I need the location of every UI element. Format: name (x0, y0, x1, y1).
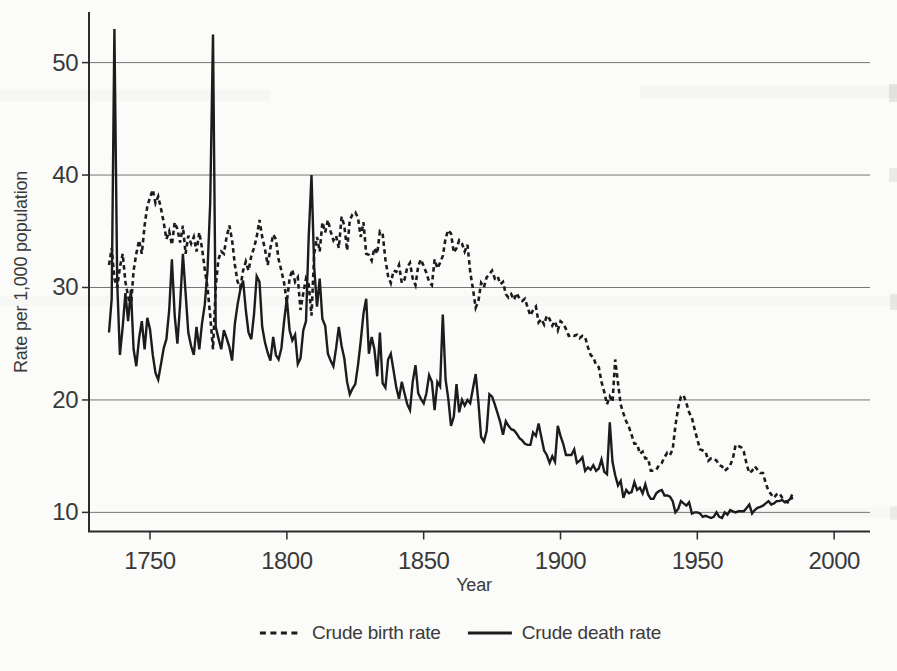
legend-item-birth-rate: Crude birth rate (259, 622, 441, 644)
x-tick-label-1900: 1900 (535, 547, 587, 574)
legend-label-birth-rate: Crude birth rate (312, 622, 441, 644)
x-tick-label-1850: 1850 (398, 547, 450, 574)
y-axis-title: Rate per 1,000 population (11, 171, 31, 373)
x-tick-label-2000: 2000 (808, 547, 860, 574)
series-line-birth-rate (109, 190, 793, 503)
y-tick-label-30: 30 (52, 273, 78, 300)
x-axis-title: Year (456, 575, 492, 595)
x-tick-label-1800: 1800 (261, 547, 313, 574)
legend-item-death-rate: Crude death rate (467, 622, 661, 644)
dashed-line-sample-icon (259, 629, 303, 637)
scan-artifacts (0, 84, 897, 520)
x-tick-label-1750: 1750 (124, 547, 176, 574)
y-tick-label-10: 10 (52, 498, 78, 525)
y-tick-label-20: 20 (52, 386, 78, 413)
data-series (109, 29, 793, 518)
y-tick-label-50: 50 (52, 49, 78, 76)
chart-legend: Crude birth rate Crude death rate (259, 622, 661, 644)
y-tick-label-40: 40 (52, 161, 78, 188)
series-line-death-rate (109, 29, 793, 518)
legend-label-death-rate: Crude death rate (522, 622, 661, 644)
x-tick-label-1950: 1950 (672, 547, 724, 574)
demographic-rates-figure: 1020304050175018001850190019502000 Rate … (0, 0, 897, 671)
solid-line-sample-icon (467, 629, 513, 637)
line-chart: 1020304050175018001850190019502000 Rate … (0, 0, 897, 671)
